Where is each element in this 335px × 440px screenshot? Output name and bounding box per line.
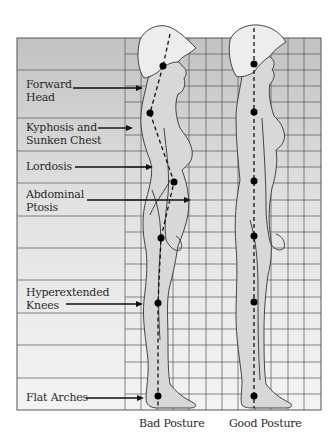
marker-dot [155, 393, 162, 400]
marker-dot [147, 110, 154, 117]
marker-dot [251, 109, 258, 116]
label-lordosis: Lordosis [26, 160, 72, 173]
label-forward-head: Forward Head [26, 78, 72, 104]
marker-dot [155, 300, 162, 307]
marker-dot [251, 61, 258, 68]
label-flat-arches: Flat Arches [26, 391, 88, 404]
posture-diagram [0, 0, 335, 440]
label-hyperextended-knees: Hyperextended Knees [26, 286, 109, 312]
marker-dot [251, 393, 258, 400]
marker-dot [160, 63, 167, 70]
label-kyphosis: Kyphosis and Sunken Chest [26, 121, 101, 147]
caption-bad-posture: Bad Posture [139, 417, 204, 430]
marker-dot [251, 178, 258, 185]
label-abdominal-ptosis: Abdominal Ptosis [26, 188, 84, 214]
caption-good-posture: Good Posture [229, 417, 302, 430]
marker-dot [171, 179, 178, 186]
marker-dot [251, 233, 258, 240]
marker-dot [158, 235, 165, 242]
marker-dot [251, 299, 258, 306]
